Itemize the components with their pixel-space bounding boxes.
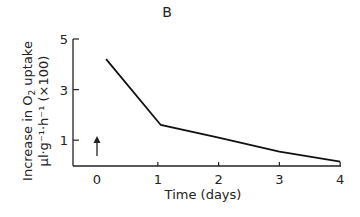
x-axis-title: Time (days) bbox=[164, 187, 242, 202]
x-tick-label: 4 bbox=[336, 172, 344, 187]
panel-label: B bbox=[162, 4, 172, 20]
y-axis-title-line1: Increase in O2 uptake bbox=[20, 41, 37, 181]
x-tick-label: 0 bbox=[93, 172, 101, 187]
data-line bbox=[106, 59, 340, 162]
y-axis-title-line2: µl·g⁻¹·h⁻¹ (×100) bbox=[36, 56, 51, 167]
axes: 135 01234 bbox=[60, 32, 345, 187]
y-ticks: 135 bbox=[60, 32, 79, 148]
x-tick-label: 1 bbox=[154, 172, 162, 187]
chart: B Increase in O2 uptake µl·g⁻¹·h⁻¹ (×100… bbox=[0, 0, 360, 217]
y-tick-label: 1 bbox=[60, 133, 68, 148]
y-tick-label: 3 bbox=[60, 83, 68, 98]
y-tick-label: 5 bbox=[60, 32, 68, 47]
arrow-up-icon bbox=[94, 136, 101, 156]
x-tick-label: 2 bbox=[214, 172, 222, 187]
x-tick-label: 3 bbox=[275, 172, 283, 187]
